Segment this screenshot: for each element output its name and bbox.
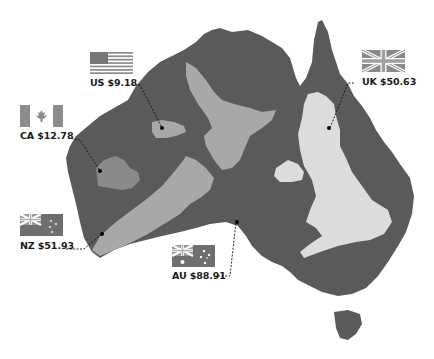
callout-label-nz: NZ $51.93 bbox=[20, 240, 74, 251]
dot-us bbox=[160, 126, 164, 130]
leader-line-au bbox=[218, 222, 236, 276]
dot-uk bbox=[327, 126, 331, 130]
us-flag-icon bbox=[90, 52, 133, 74]
dot-nz bbox=[100, 232, 104, 236]
callout-label-ca: CA $12.78 bbox=[20, 130, 73, 141]
australia-flag-icon bbox=[172, 245, 215, 267]
callout-label-au: AU $88.91 bbox=[172, 270, 226, 281]
australia-map bbox=[0, 0, 434, 359]
callout-label-us: US $9.18 bbox=[90, 77, 137, 88]
new-zealand-flag-icon bbox=[20, 214, 63, 236]
dot-au bbox=[235, 220, 239, 224]
canada-flag-icon bbox=[20, 105, 63, 127]
tasmania bbox=[334, 310, 362, 340]
uk-flag-icon bbox=[362, 50, 405, 72]
dot-ca bbox=[98, 169, 102, 173]
callout-label-uk: UK $50.63 bbox=[362, 76, 416, 87]
